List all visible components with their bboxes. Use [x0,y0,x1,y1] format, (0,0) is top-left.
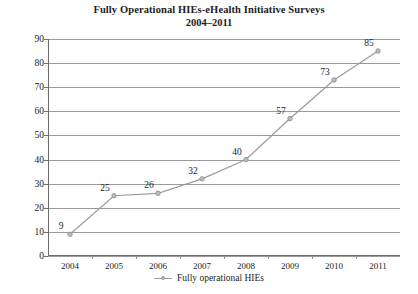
x-axis-tick-label: 2004 [61,261,79,271]
series-markers [68,49,380,237]
data-point-label: 40 [232,147,242,157]
chart-title: Fully Operational HIEs-eHealth Initiativ… [0,4,418,17]
plot-area: 925263240577385 [48,39,400,256]
series-line-fully-operational-hies [48,39,400,256]
x-tick [92,256,93,259]
y-axis-tick-label: 10 [18,227,44,237]
x-axis-tick-label: 2010 [325,261,343,271]
data-point-marker [156,191,160,195]
y-axis-tick-label: 60 [18,106,44,116]
y-axis-tick-label: 40 [18,155,44,165]
x-tick [312,256,313,259]
data-point-marker [112,194,116,198]
x-axis-tick-label: 2007 [193,261,211,271]
data-point-marker [68,232,72,236]
data-point-label: 57 [276,106,286,116]
data-point-marker [332,78,336,82]
x-axis-tick-label: 2009 [281,261,299,271]
x-axis-tick-label: 2006 [149,261,167,271]
y-axis-tick-label: 0 [18,251,44,261]
x-axis-tick-label: 2008 [237,261,255,271]
x-tick [356,256,357,259]
y-axis-tick-label: 80 [18,58,44,68]
x-tick [180,256,181,259]
data-point-label: 26 [144,180,154,190]
y-axis-tick-label: 90 [18,34,44,44]
x-axis-tick-label: 2011 [369,261,387,271]
x-tick [224,256,225,259]
data-point-marker [288,116,292,120]
data-point-marker [200,177,204,181]
chart-legend: Fully operational HIEs [0,273,418,283]
x-tick [268,256,269,259]
data-point-label: 32 [188,166,198,176]
legend-item-label: Fully operational HIEs [177,273,264,283]
data-point-marker [244,157,248,161]
data-point-label: 73 [320,67,330,77]
x-axis-tick-label: 2005 [105,261,123,271]
y-axis-tick-label: 30 [18,179,44,189]
x-tick [136,256,137,259]
data-point-label: 9 [59,221,64,231]
data-point-marker [376,49,380,53]
y-axis-tick-label: 50 [18,130,44,140]
y-axis-tick-label: 20 [18,203,44,213]
data-point-label: 85 [364,38,374,48]
chart-container: Fully Operational HIEs-eHealth Initiativ… [0,0,418,294]
y-tick [44,256,48,257]
data-point-label: 25 [100,183,110,193]
line-marker-icon [154,274,172,283]
y-axis-tick-label: 70 [18,82,44,92]
chart-subtitle: 2004–2011 [0,17,418,30]
